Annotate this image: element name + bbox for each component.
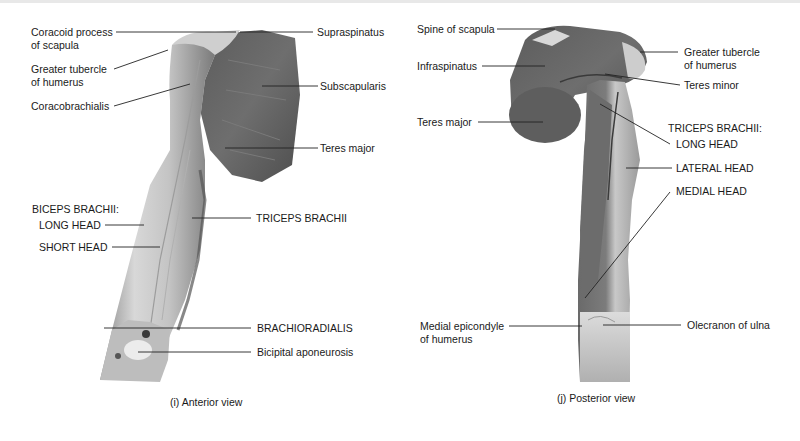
label-greater-tubercle-anterior: Greater tubercle of humerus — [31, 63, 107, 88]
label-line: of humerus — [31, 76, 107, 89]
label-coracobrachialis: Coracobrachialis — [31, 100, 109, 113]
label-greater-tubercle-posterior: Greater tubercle of humerus — [684, 46, 760, 71]
label-bicipital-aponeurosis: Bicipital aponeurosis — [257, 346, 353, 359]
label-triceps-long-head: LONG HEAD — [676, 138, 738, 151]
label-spine-of-scapula: Spine of scapula — [417, 23, 495, 36]
label-line: of humerus — [420, 333, 504, 346]
label-triceps-brachii-anterior: TRICEPS BRACHII — [256, 212, 347, 225]
label-infraspinatus: Infraspinatus — [417, 60, 477, 73]
label-coracoid-process: Coracoid process of scapula — [31, 26, 113, 51]
label-teres-major-posterior: Teres major — [417, 116, 472, 129]
label-teres-minor: Teres minor — [684, 79, 739, 92]
label-triceps-lateral-head: LATERAL HEAD — [676, 162, 754, 175]
label-biceps-long-head: LONG HEAD — [39, 219, 101, 232]
label-line: of humerus — [684, 59, 760, 72]
label-brachioradialis: BRACHIORADIALIS — [257, 322, 353, 335]
label-triceps-medial-head: MEDIAL HEAD — [676, 185, 747, 198]
label-subscapularis: Subscapularis — [320, 80, 386, 93]
label-line: Medial epicondyle — [420, 320, 504, 333]
label-biceps-short-head: SHORT HEAD — [39, 241, 107, 254]
anatomy-illustration — [0, 0, 800, 441]
label-line: Greater tubercle — [31, 63, 107, 76]
label-line: Greater tubercle — [684, 46, 760, 59]
label-line: Coracoid process — [31, 26, 113, 39]
label-line: of scapula — [31, 39, 113, 52]
label-medial-epicondyle: Medial epicondyle of humerus — [420, 320, 504, 345]
label-supraspinatus: Supraspinatus — [317, 26, 384, 39]
caption-posterior-view: (j) Posterior view — [557, 392, 635, 404]
caption-anterior-view: (i) Anterior view — [170, 396, 242, 408]
label-biceps-brachii-group: BICEPS BRACHII: — [32, 203, 119, 216]
label-olecranon-of-ulna: Olecranon of ulna — [687, 319, 770, 332]
posterior-arm-figure — [509, 26, 647, 382]
label-teres-major-anterior: Teres major — [320, 142, 375, 155]
label-triceps-brachii-group: TRICEPS BRACHII: — [668, 122, 762, 135]
